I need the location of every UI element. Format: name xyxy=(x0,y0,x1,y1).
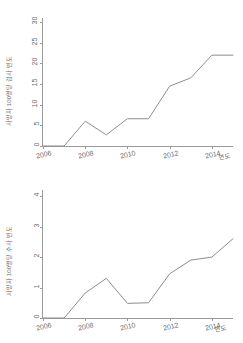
x-axis-tick-label: 2006 xyxy=(35,321,52,331)
x-axis-tick-label: 2012 xyxy=(162,321,179,331)
data-line-svg-top xyxy=(43,18,233,146)
x-axis-tick-label: 2008 xyxy=(78,321,95,331)
x-axis-tick-label: 2006 xyxy=(35,149,52,159)
plot-area-top: 05101520253020062008201020122014 xyxy=(42,18,233,147)
plot-area-bottom: 0123420062008201020122014 xyxy=(42,190,233,319)
x-axis-tick-label: 2008 xyxy=(78,149,95,159)
y-axis-label-top: 사망자 100명당 검사 빈도 xyxy=(2,16,16,166)
y-axis-tick-label: 3 xyxy=(34,223,41,227)
x-axis-label-top: 연도 xyxy=(217,151,231,162)
x-axis-tick-label: 2012 xyxy=(162,149,179,159)
y-axis-tick-label: 2 xyxy=(34,254,41,258)
data-line-top xyxy=(43,55,233,146)
y-axis-tick-label: 10 xyxy=(32,99,39,107)
x-axis-tick-label: 2010 xyxy=(120,149,137,159)
y-axis-tick-label: 0 xyxy=(34,315,41,319)
chart-panel-bottom: 사망자 100명당 수사 빈도 012342006200820102012201… xyxy=(0,172,243,343)
chart-panel-top: 사망자 100명당 검사 빈도 051015202530200620082010… xyxy=(0,0,243,171)
y-axis-tick-label: 4 xyxy=(34,193,41,197)
y-axis-tick-label: 0 xyxy=(34,143,41,147)
y-axis-tick-label: 1 xyxy=(34,284,41,288)
data-line-bottom xyxy=(43,239,233,318)
x-axis-tick-label: 2010 xyxy=(120,321,137,331)
y-axis-tick-label: 15 xyxy=(32,79,39,87)
y-axis-tick-label: 25 xyxy=(32,37,39,45)
y-axis-tick-label: 30 xyxy=(32,17,39,25)
y-axis-tick-label: 20 xyxy=(32,58,39,66)
two-panel-line-chart-figure: 사망자 100명당 검사 빈도 051015202530200620082010… xyxy=(0,0,243,343)
data-line-svg-bottom xyxy=(43,190,233,318)
x-axis-label-bottom: 연도 xyxy=(213,323,227,334)
y-axis-tick-label: 5 xyxy=(34,122,41,126)
y-axis-label-bottom: 사망자 100명당 수사 빈도 xyxy=(2,186,16,336)
